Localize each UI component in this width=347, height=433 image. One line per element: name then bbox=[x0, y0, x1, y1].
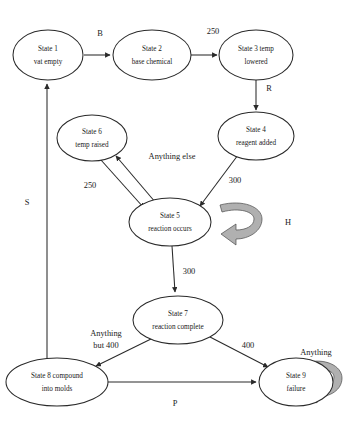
node-label-line2: reagent added bbox=[236, 139, 277, 147]
node-label-line2: into molds bbox=[42, 385, 73, 393]
self-loop-state5: H bbox=[220, 203, 291, 245]
node-shape[interactable] bbox=[259, 358, 333, 406]
node-state1[interactable]: State 1 vat empty bbox=[13, 30, 83, 80]
node-label-line2: reaction occurs bbox=[148, 225, 192, 233]
edge-state7-state9: 400 bbox=[210, 337, 268, 367]
node-shape[interactable] bbox=[219, 30, 293, 80]
node-label-line1: State 9 bbox=[286, 372, 306, 380]
edge-label-anything-but-400-line2: but 400 bbox=[93, 341, 118, 350]
edge-label-400: 400 bbox=[242, 341, 255, 350]
node-label-line1: State 7 bbox=[168, 310, 188, 318]
refresh-loop-icon bbox=[220, 203, 262, 245]
node-label-line1: State 3 temp bbox=[238, 45, 274, 53]
node-shape[interactable] bbox=[133, 296, 223, 344]
edge-label-300-lower: 300 bbox=[183, 267, 196, 276]
edge-state8-state1: S bbox=[25, 84, 47, 406]
loop-label-h: H bbox=[285, 218, 291, 227]
edge-state1-state2: B bbox=[84, 29, 110, 55]
node-shape[interactable] bbox=[113, 30, 191, 80]
node-label-line2: reaction complete bbox=[152, 323, 203, 331]
node-shape[interactable] bbox=[129, 198, 211, 246]
node-state3[interactable]: State 3 temp lowered bbox=[219, 30, 293, 80]
node-label-line2: vat empty bbox=[34, 58, 63, 66]
node-state2[interactable]: State 2 base chemical bbox=[113, 30, 191, 80]
edge-state2-state3: 250 bbox=[191, 27, 219, 55]
node-state9[interactable]: State 9 failure bbox=[259, 358, 333, 406]
edge-label-r: R bbox=[266, 84, 272, 93]
nodes-layer: State 1 vat empty State 2 base chemical … bbox=[6, 30, 333, 406]
edge-label-250-mid: 250 bbox=[84, 181, 97, 190]
node-state4[interactable]: State 4 reagent added bbox=[218, 112, 294, 160]
edge-state3-state4: R bbox=[256, 80, 272, 110]
edge-state4-state5: 300 bbox=[200, 155, 241, 206]
edge-label-anything-else: Anything else bbox=[149, 152, 196, 161]
node-label-line1: State 8 compound bbox=[31, 372, 83, 380]
node-shape[interactable] bbox=[57, 115, 127, 161]
edge-label-p: P bbox=[173, 399, 178, 408]
node-label-line2: base chemical bbox=[132, 58, 173, 66]
node-label-line1: State 2 bbox=[142, 45, 162, 53]
edge-label-b: B bbox=[97, 29, 103, 38]
edge-label-s: S bbox=[25, 198, 30, 207]
node-label-line1: State 1 bbox=[38, 45, 58, 53]
node-label-line2: failure bbox=[287, 385, 306, 393]
edge-label-250-top: 250 bbox=[207, 27, 220, 36]
node-label-line1: State 4 bbox=[246, 126, 266, 134]
edge-state5-state7: 300 bbox=[172, 246, 195, 292]
diagram-canvas: B 250 R 300 250 bbox=[0, 0, 347, 433]
edge-label-anything-but-400-line1: Anything bbox=[90, 329, 122, 338]
edge-state6-state5: 250 bbox=[84, 160, 144, 208]
node-state7[interactable]: State 7 reaction complete bbox=[133, 296, 223, 344]
edge-state5-state6: Anything else bbox=[116, 152, 196, 203]
state-diagram: B 250 R 300 250 bbox=[0, 0, 347, 433]
node-label-line1: State 6 bbox=[82, 128, 102, 136]
node-shape[interactable] bbox=[218, 112, 294, 160]
node-state6[interactable]: State 6 temp raised bbox=[57, 115, 127, 161]
edge-state8-state9: P bbox=[107, 382, 256, 408]
loop-label-anything: Anything bbox=[300, 348, 332, 357]
node-shape[interactable] bbox=[13, 30, 83, 80]
node-state8[interactable]: State 8 compound into molds bbox=[6, 358, 108, 406]
node-label-line2: lowered bbox=[244, 58, 268, 66]
node-label-line1: State 5 bbox=[160, 212, 180, 220]
node-label-line2: temp raised bbox=[75, 141, 109, 149]
node-shape[interactable] bbox=[6, 358, 108, 406]
node-state5[interactable]: State 5 reaction occurs bbox=[129, 198, 211, 246]
edge-label-300-upper: 300 bbox=[229, 176, 242, 185]
